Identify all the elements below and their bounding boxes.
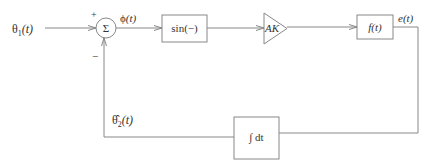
pll-block-diagram: θ1(t) Σ + − ϕ(t) sin(−) AK f(t) e(t) ∫ d… — [0, 0, 431, 165]
filter-output-label: e(t) — [398, 12, 414, 25]
gain-block-label: AK — [264, 22, 280, 34]
filter-block-label: f(t) — [368, 21, 382, 34]
feedback-label: θ̂2(t) — [112, 113, 133, 129]
phase-error-label: ϕ(t) — [120, 12, 137, 25]
sin-block-label: sin(−) — [171, 22, 198, 35]
sigma-icon: Σ — [103, 22, 109, 34]
input-label: θ1(t) — [12, 22, 33, 38]
integrator-block-label: ∫ dt — [248, 131, 263, 144]
plus-sign: + — [91, 9, 97, 20]
minus-sign: − — [92, 50, 98, 62]
